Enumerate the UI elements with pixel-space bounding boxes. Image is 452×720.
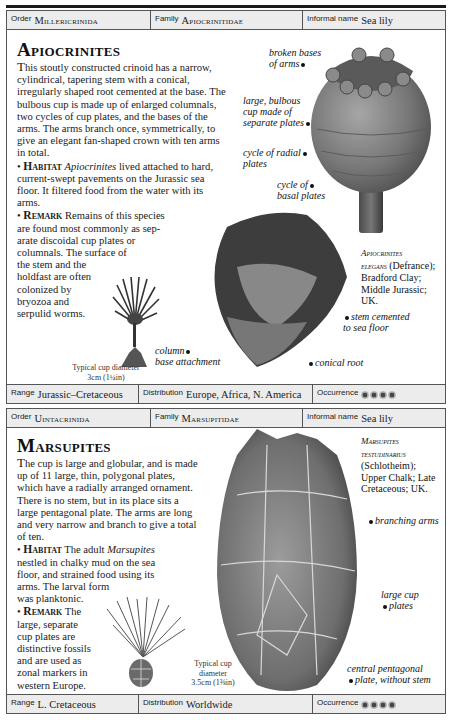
habitat-genus: Marsupites bbox=[107, 544, 155, 555]
remark-line: colonized by bbox=[17, 284, 71, 295]
label-basal-plates: cycle of basal plates bbox=[277, 179, 325, 201]
top-rule bbox=[6, 5, 446, 8]
remark-line: columnals. The surface of bbox=[17, 247, 127, 258]
remark-keyword: Remark bbox=[23, 605, 62, 617]
remark-keyword: Remark bbox=[23, 209, 62, 221]
occurrence-label: Occurrence bbox=[317, 698, 358, 707]
occurrence-cell: Occurrence bbox=[313, 385, 445, 403]
informal-name-label: Informal name bbox=[307, 14, 358, 23]
label-line: large cup bbox=[381, 589, 419, 600]
remark-line: western Europe. bbox=[17, 680, 86, 691]
label-large-cup-plates: large cup plates bbox=[381, 589, 419, 611]
occurrence-cell: Occurrence bbox=[313, 695, 445, 713]
formation: Bradford Clay; bbox=[361, 272, 421, 283]
description-text: his stoutly constructed crinoid has a na… bbox=[17, 62, 226, 158]
range-cell: Range L. Cretaceous bbox=[7, 695, 139, 713]
habitat-line: nestled in chalky mud on the sea bbox=[17, 557, 155, 568]
remark-line: serpulid worms. bbox=[17, 308, 85, 319]
geologic-age: Cretaceous; UK. bbox=[361, 483, 428, 494]
habitat-keyword: Habitat bbox=[23, 543, 61, 555]
label-line: branching arms bbox=[375, 515, 439, 526]
occurrence-label: Occurrence bbox=[317, 388, 358, 397]
range-value: Jurassic–Cretaceous bbox=[38, 389, 123, 400]
order-value: Millericrinida bbox=[34, 15, 97, 26]
label-line: to sea floor bbox=[343, 322, 389, 333]
leader-dot bbox=[349, 679, 353, 683]
remark-line: are found most commonly as sep- bbox=[17, 223, 160, 234]
leader-dot bbox=[301, 63, 305, 67]
occurrence-rating bbox=[361, 701, 396, 709]
informal-name-value: Sea lily bbox=[361, 413, 393, 424]
species-name: Marsupites bbox=[361, 436, 399, 446]
occurrence-dot-icon bbox=[361, 701, 369, 709]
habitat-line: arms. The larval form bbox=[17, 581, 109, 592]
species-name: elegans bbox=[361, 261, 387, 271]
informal-name-value: Sea lily bbox=[361, 15, 393, 26]
habitat-text: The adult bbox=[62, 544, 107, 555]
label-line: broken bases bbox=[269, 47, 321, 58]
habitat-genus: Apiocrinites bbox=[64, 161, 116, 172]
order-cell: Order Uintacrinida bbox=[7, 409, 151, 427]
leader-dot bbox=[310, 184, 314, 188]
range-label: Range bbox=[11, 698, 35, 707]
informal-name-label: Informal name bbox=[307, 412, 358, 421]
formation: Upper Chalk; Late bbox=[361, 472, 435, 483]
label-line: cup made of bbox=[243, 106, 292, 117]
order-cell: Order Millericrinida bbox=[7, 11, 151, 29]
range-value: L. Cretaceous bbox=[38, 699, 96, 710]
description-text: he cup is large and globular, and is mad… bbox=[17, 458, 198, 542]
remark-line: Remains of this species bbox=[65, 210, 165, 221]
family-value: Apiocrinitidae bbox=[182, 15, 244, 26]
occurrence-rating bbox=[361, 391, 396, 399]
scale-note: Typical cup diameter 3cm (1¼in) bbox=[61, 363, 151, 382]
leader-dot bbox=[383, 605, 387, 609]
leader-dot bbox=[303, 152, 307, 156]
leader-dot bbox=[309, 362, 313, 366]
family-value: Marsupitidae bbox=[182, 413, 240, 424]
label-line: column bbox=[155, 345, 184, 356]
specimen-caption: Marsupites testudinarius (Schlotheim); U… bbox=[361, 435, 447, 495]
leader-dot bbox=[186, 350, 190, 354]
label-bulbous-cup: large, bulbous cup made of separate plat… bbox=[243, 95, 312, 128]
informal-name-cell: Informal name Sea lily bbox=[303, 11, 445, 29]
label-line: base attachment bbox=[155, 356, 220, 367]
remark-line: the stem and the bbox=[17, 259, 86, 270]
label-line: basal plates bbox=[277, 190, 325, 201]
range-bar: Range L. Cretaceous Distribution Worldwi… bbox=[7, 694, 445, 713]
leader-dot bbox=[306, 122, 310, 126]
label-line: plates bbox=[389, 600, 413, 611]
label-conical-root: conical root bbox=[307, 357, 363, 368]
remark-line: holdfast are often bbox=[17, 271, 91, 282]
label-line: separate plates bbox=[243, 117, 304, 128]
label-line: large, bulbous bbox=[243, 95, 300, 106]
label-branching-arms: branching arms bbox=[367, 515, 439, 526]
distribution-value: Europe, Africa, N. America bbox=[186, 389, 301, 400]
distribution-label: Distribution bbox=[143, 388, 183, 397]
occurrence-dot-icon bbox=[379, 391, 387, 399]
label-line: conical root bbox=[315, 357, 363, 368]
geologic-age: Middle Jurassic; UK. bbox=[361, 284, 427, 307]
habitat-line: was planktonic. bbox=[17, 593, 84, 604]
entry-title: Apiocrinites bbox=[17, 39, 120, 61]
remark-line: and are used as bbox=[17, 655, 81, 666]
scale-note-line: 3cm (1¼in) bbox=[87, 373, 124, 382]
order-value: Uintacrinida bbox=[34, 413, 89, 424]
label-stem-cemented: stem cemented to sea floor bbox=[343, 311, 410, 333]
entry-title: Marsupites bbox=[17, 435, 111, 457]
family-label: Family bbox=[155, 412, 179, 421]
remark-line: large, separate bbox=[17, 619, 78, 630]
species-name: testudinarius bbox=[361, 449, 406, 459]
species-name: Apiocrinites bbox=[361, 248, 402, 258]
remark-text: The bbox=[62, 606, 81, 617]
family-label: Family bbox=[155, 14, 179, 23]
remark-line: bryozoa and bbox=[17, 296, 69, 307]
label-line: plates bbox=[243, 158, 267, 169]
apiocrinites-root-photo bbox=[207, 207, 357, 377]
marsupites-cup-photo bbox=[207, 425, 367, 697]
scale-note-line: Typical cup diameter bbox=[72, 363, 139, 372]
occurrence-dot-icon bbox=[361, 391, 369, 399]
label-line: cycle of bbox=[277, 179, 308, 190]
label-broken-bases: broken bases of arms bbox=[269, 47, 321, 69]
order-label: Order bbox=[11, 412, 31, 421]
leader-dot bbox=[369, 520, 373, 524]
